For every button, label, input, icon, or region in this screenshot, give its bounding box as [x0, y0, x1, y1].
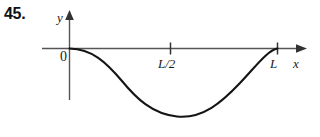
figure-container: 45. y x 0 L/2 L — [0, 0, 320, 137]
x-tick-label-l: L — [270, 56, 277, 72]
x-axis-arrowhead — [296, 44, 307, 53]
x-axis-label: x — [293, 56, 299, 72]
x-tick-label-half-l: L/2 — [158, 56, 175, 72]
y-axis-arrowhead — [65, 10, 74, 20]
origin-label: 0 — [60, 49, 67, 65]
y-axis-label: y — [57, 10, 63, 26]
